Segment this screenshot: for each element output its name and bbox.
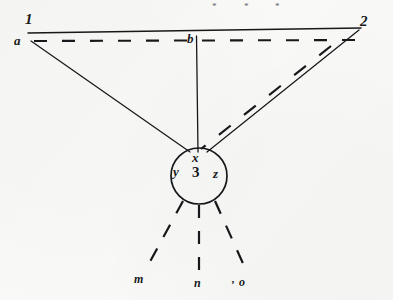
asterisk-marker-1: * xyxy=(212,2,217,11)
label-core-x: x xyxy=(192,151,199,164)
label-point-a: a xyxy=(14,34,21,47)
label-core-z: z xyxy=(213,167,218,180)
vertical-b-to-core xyxy=(197,36,199,152)
label-core-3: 3 xyxy=(192,165,200,180)
solid-baseline-line xyxy=(28,28,361,33)
chord-group xyxy=(31,30,359,152)
chord-two-to-core xyxy=(207,30,359,152)
baseline-group xyxy=(28,28,361,41)
label-tick-mark: , xyxy=(232,274,235,285)
ray-to-m xyxy=(146,201,183,269)
dashed-parallel-right-line xyxy=(201,46,331,149)
label-endpoint-2: 2 xyxy=(360,14,368,29)
label-ray-n: n xyxy=(194,277,201,289)
label-endpoint-1: 1 xyxy=(25,12,33,27)
label-point-b: b xyxy=(187,32,194,45)
asterisk-marker-3: * xyxy=(275,2,280,11)
label-ray-m: m xyxy=(134,273,143,285)
chord-a-to-core xyxy=(31,41,190,152)
diagram-canvas: 1 2 a b x y 3 z m n , o * * * xyxy=(0,0,393,300)
ray-to-o xyxy=(215,201,245,268)
dashed-baseline-line xyxy=(34,40,356,41)
asterisk-marker-2: * xyxy=(244,2,249,11)
ray-group xyxy=(146,201,245,272)
label-ray-o: o xyxy=(239,276,245,288)
label-core-y: y xyxy=(173,165,179,178)
